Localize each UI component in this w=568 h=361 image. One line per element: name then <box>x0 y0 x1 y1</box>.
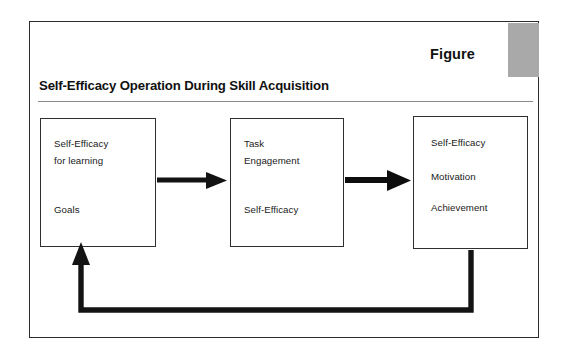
figure-badge-label: Figure <box>430 46 475 62</box>
feedback-arrow-node3-to-node1 <box>72 242 471 310</box>
node-1-line-3: Goals <box>54 204 80 215</box>
figure-frame: Figure Self-Efficacy Operation During Sk… <box>29 21 539 338</box>
arrow-node1-to-node2 <box>157 172 227 189</box>
node-2-line-2: Engagement <box>244 155 299 166</box>
node-3-line-1: Self-Efficacy <box>431 137 485 148</box>
arrow-node2-to-node3 <box>345 170 411 191</box>
figure-title: Self-Efficacy Operation During Skill Acq… <box>39 78 329 93</box>
node-1-line-2: for learning <box>54 155 103 166</box>
figure-screenshot: Figure Self-Efficacy Operation During Sk… <box>0 0 568 361</box>
diagram-node-1: Self-Efficacy for learning Goals <box>40 118 156 247</box>
node-1-line-1: Self-Efficacy <box>54 138 108 149</box>
node-2-line-3: Self-Efficacy <box>244 204 298 215</box>
diagram-node-2: Task Engagement Self-Efficacy <box>230 118 344 247</box>
gray-accent-block <box>508 23 539 77</box>
node-2-line-1: Task <box>244 138 264 149</box>
node-3-line-3: Achievement <box>431 202 488 213</box>
title-divider <box>38 101 533 102</box>
node-3-line-2: Motivation <box>431 171 476 182</box>
diagram-node-3: Self-Efficacy Motivation Achievement <box>413 116 528 249</box>
